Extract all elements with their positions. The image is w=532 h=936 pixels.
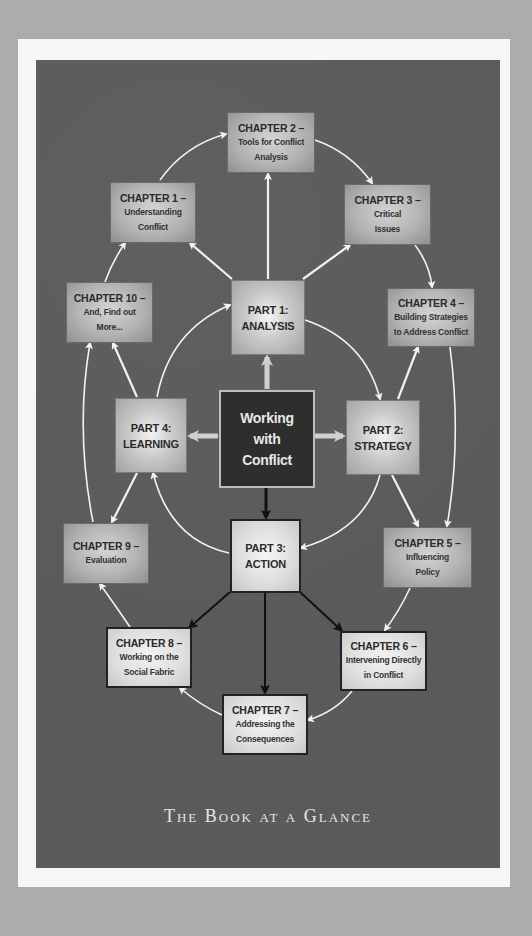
chapter-8-title-line2: Social Fabric (124, 665, 174, 680)
chapter-1-box: CHAPTER 1 – Understanding Conflict (110, 182, 196, 243)
chapter-5-heading: CHAPTER 5 – (394, 536, 460, 550)
chapter-8-heading: CHAPTER 8 – (116, 636, 182, 650)
chapter-5-title-line2: Policy (416, 565, 440, 580)
chapter-3-box: CHAPTER 3 – Critical Issues (344, 184, 431, 245)
arrow-ch5-ch6 (385, 588, 410, 630)
center-line-1: Working (240, 408, 294, 429)
chapter-7-heading: CHAPTER 7 – (232, 703, 298, 717)
arrow-part4-part1 (157, 305, 230, 397)
part-4-label: PART 4: (131, 420, 172, 436)
arrow-part3-ch6 (300, 592, 341, 630)
chapter-7-box: CHAPTER 7 – Addressing the Consequences (222, 694, 308, 755)
arrow-ch6-ch7 (308, 691, 352, 720)
chapter-8-box: CHAPTER 8 – Working on the Social Fabric (106, 627, 192, 688)
part-1-title: ANALYSIS (241, 318, 294, 334)
chapter-2-title-line2: Analysis (254, 150, 287, 165)
center-line-2: with (254, 429, 281, 450)
arrow-ch10-ch1 (105, 243, 125, 282)
part-2-title: STRATEGY (354, 438, 411, 454)
diagram-title: The Book at a Glance (36, 806, 500, 827)
chapter-8-title-line1: Working on the (120, 650, 179, 665)
arrow-part4-ch9 (112, 473, 137, 522)
center-line-3: Conflict (242, 450, 292, 471)
chapter-6-title-line2: in Conflict (364, 668, 403, 683)
chapter-7-title-line1: Addressing the (235, 717, 294, 732)
chapter-4-title-line2: to Address Conflict (394, 325, 468, 340)
part-3-title: ACTION (245, 556, 286, 572)
arrow-part1-ch1 (190, 243, 232, 279)
chapter-10-title-line2: More... (97, 320, 123, 335)
part-4-box: PART 4: LEARNING (115, 398, 187, 473)
part-1-label: PART 1: (248, 302, 289, 318)
chapter-7-title-line2: Consequences (236, 732, 294, 747)
arrow-ch8-ch9 (100, 584, 130, 627)
part-2-label: PART 2: (363, 422, 404, 438)
chapter-1-title-line2: Conflict (138, 220, 168, 235)
chapter-1-heading: CHAPTER 1 – (120, 191, 186, 205)
chapter-5-title-line1: Influencing (406, 550, 449, 565)
arrow-part4-ch10 (113, 343, 137, 397)
chapter-10-box: CHAPTER 10 – And, Find out More... (66, 282, 153, 343)
arrow-part1-ch3 (303, 245, 350, 279)
arrow-ch2-ch3 (315, 140, 372, 183)
arrow-ch7-ch8 (180, 688, 222, 715)
chapter-9-title-line1: Evaluation (86, 553, 127, 568)
chapter-1-title-line1: Understanding (124, 205, 181, 220)
chapter-5-box: CHAPTER 5 – Influencing Policy (383, 527, 472, 588)
chapter-6-box: CHAPTER 6 – Intervening Directly in Conf… (340, 631, 427, 691)
chapter-3-heading: CHAPTER 3 – (354, 193, 420, 207)
chapter-4-title-line1: Building Strategies (394, 310, 468, 325)
chapter-2-heading: CHAPTER 2 – (238, 121, 304, 135)
chapter-6-title-line1: Intervening Directly (346, 653, 421, 668)
arrow-part2-ch4 (398, 347, 418, 399)
arrow-part3-part4 (153, 473, 229, 553)
part-2-box: PART 2: STRATEGY (346, 400, 420, 475)
chapter-2-box: CHAPTER 2 – Tools for Conflict Analysis (227, 112, 315, 173)
chapter-9-heading: CHAPTER 9 – (73, 539, 139, 553)
chapter-9-box: CHAPTER 9 – Evaluation (63, 523, 149, 584)
arrow-ch1-ch2 (160, 134, 226, 180)
chapter-4-box: CHAPTER 4 – Building Strategies to Addre… (387, 288, 475, 347)
chapter-4-heading: CHAPTER 4 – (398, 296, 464, 310)
center-working-with-conflict-box: Working with Conflict (219, 390, 315, 488)
arrow-ch9-ch10 (83, 343, 93, 522)
arrow-part3-ch8 (190, 592, 230, 627)
part-1-box: PART 1: ANALYSIS (231, 280, 305, 355)
chapter-10-title-line1: And, Find out (83, 305, 135, 320)
chapter-3-title-line1: Critical (374, 207, 401, 222)
part-4-title: LEARNING (123, 436, 179, 452)
arrow-ch3-ch4 (415, 245, 432, 287)
arrow-ch4-ch5 (447, 347, 455, 526)
part-3-label: PART 3: (245, 540, 286, 556)
chapter-3-title-line2: Issues (375, 222, 400, 237)
arrow-part1-part2 (305, 320, 380, 399)
part-3-box: PART 3: ACTION (230, 519, 301, 593)
chapter-2-title-line1: Tools for Conflict (238, 135, 304, 150)
arrow-part2-ch5 (392, 475, 418, 526)
chapter-6-heading: CHAPTER 6 – (350, 639, 416, 653)
chapter-10-heading: CHAPTER 10 – (74, 291, 146, 305)
